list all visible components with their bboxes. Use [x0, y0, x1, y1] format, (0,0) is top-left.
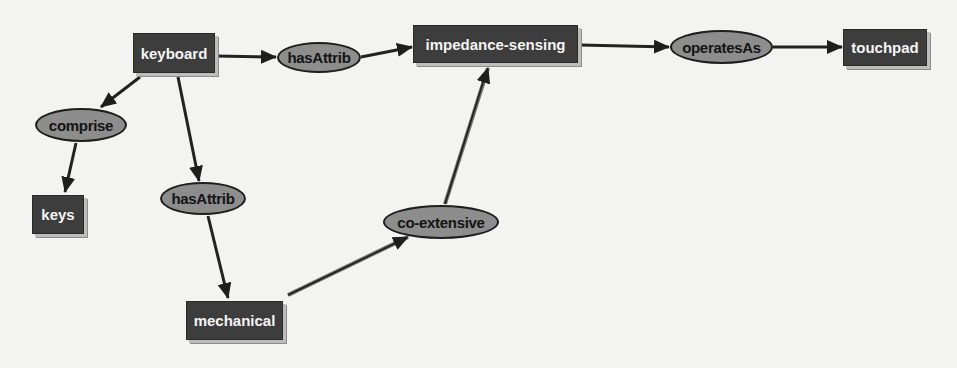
relation-has-attrib-2[interactable]: hasAttrib: [160, 182, 246, 215]
concept-keyboard[interactable]: keyboard: [133, 33, 215, 73]
relation-has-attrib-2-label: hasAttrib: [171, 190, 234, 207]
edge-keyboard-comprise: [101, 77, 140, 107]
edge-comprise-keys: [65, 143, 76, 192]
concept-keys-label: keys: [41, 206, 74, 223]
edge-impedance-operatesas: [580, 45, 669, 47]
concept-impedance-sensing[interactable]: impedance-sensing: [413, 25, 578, 63]
concept-map-canvas: keyboard impedance-sensing touchpad keys…: [0, 0, 957, 368]
relation-operates-as-label: operatesAs: [682, 39, 761, 56]
relation-has-attrib-1-label: hasAttrib: [287, 49, 350, 66]
edge-keyboard-hasattrib2: [178, 77, 199, 181]
edge-hasattrib2-mechanical: [208, 216, 228, 298]
edge-hasattrib-impedance: [361, 47, 412, 57]
relation-has-attrib-1[interactable]: hasAttrib: [277, 42, 361, 73]
concept-keys[interactable]: keys: [32, 195, 84, 234]
relation-comprise-label: comprise: [49, 117, 113, 134]
relation-co-extensive-label: co-extensive: [397, 214, 484, 231]
relation-co-extensive[interactable]: co-extensive: [383, 205, 499, 239]
concept-touchpad[interactable]: touchpad: [843, 29, 927, 66]
concept-impedance-sensing-label: impedance-sensing: [425, 36, 565, 53]
relation-comprise[interactable]: comprise: [35, 108, 127, 142]
concept-mechanical[interactable]: mechanical: [186, 301, 283, 340]
relation-operates-as[interactable]: operatesAs: [670, 30, 773, 64]
concept-touchpad-label: touchpad: [851, 39, 919, 56]
concept-mechanical-label: mechanical: [194, 312, 276, 329]
edge-keyboard-hasattrib: [216, 56, 276, 57]
concept-keyboard-label: keyboard: [141, 45, 208, 62]
